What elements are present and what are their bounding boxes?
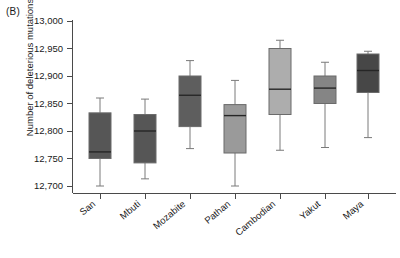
y-axis-ticks: 12,70012,75012,80012,85012,90012,95013,0… (34, 15, 73, 191)
plot-area: 12,70012,75012,80012,85012,90012,95013,0… (0, 0, 400, 258)
x-category-label: San (77, 198, 97, 217)
y-tick-label: 12,800 (34, 125, 63, 136)
box-iqr (224, 105, 246, 153)
x-category-label: Mbuti (117, 198, 142, 221)
x-category-label: Yakut (297, 198, 322, 222)
box-plot-item (269, 40, 291, 150)
boxplot-figure: (B) Number of deleterious mutations 12,7… (0, 0, 400, 258)
y-tick-label: 12,950 (34, 43, 63, 54)
box-plot-item (179, 61, 201, 149)
y-tick-label: 12,900 (34, 70, 63, 81)
x-axis-ticks (100, 194, 368, 200)
box-iqr (134, 115, 156, 163)
x-axis-category-labels: SanMbutiMozabitePathanCambodianYakutMaya (77, 198, 366, 238)
y-tick-label: 12,700 (34, 180, 63, 191)
box-iqr (357, 54, 379, 93)
y-tick-label: 12,850 (34, 98, 63, 109)
x-category-label: Mozabite (151, 198, 188, 231)
box-plot-item (314, 62, 336, 147)
y-tick-label: 12,750 (34, 153, 63, 164)
x-category-label: Maya (340, 198, 365, 222)
box-iqr (179, 76, 201, 127)
box-plot-item (357, 51, 379, 137)
x-category-label: Cambodian (233, 198, 277, 238)
x-category-label: Pathan (202, 198, 232, 226)
y-tick-label: 13,000 (34, 15, 63, 26)
box-plot-item (89, 98, 111, 186)
box-plot-item (134, 99, 156, 179)
box-plot-item (224, 80, 246, 186)
box-series (89, 40, 379, 186)
box-iqr (269, 49, 291, 115)
box-iqr (314, 76, 336, 104)
